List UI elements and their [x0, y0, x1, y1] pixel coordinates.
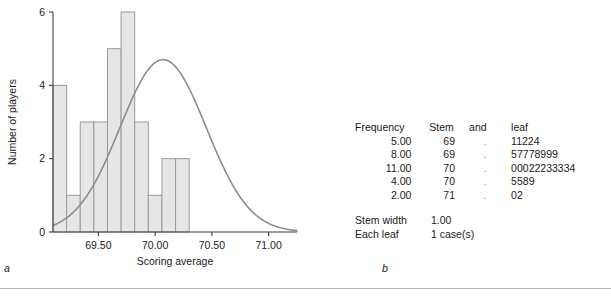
cell-stem: 70: [411, 163, 469, 177]
cell-leaf: 57778999: [501, 149, 605, 163]
y-tick-label: 2: [39, 152, 45, 164]
y-axis-title: Number of players: [6, 79, 18, 165]
cell-frequency: 5.00: [355, 136, 411, 150]
x-axis-title: Scoring average: [137, 255, 214, 267]
cell-leaf: 02: [501, 190, 605, 204]
cell-separator-dot: .: [469, 190, 501, 204]
cell-leaf: 00022233334: [501, 163, 605, 177]
header-and: and: [469, 122, 501, 136]
x-tick-label: 70.00: [142, 239, 168, 251]
cell-leaf: 11224: [501, 136, 605, 150]
y-tick-label: 6: [39, 6, 45, 18]
x-tick-label: 69.50: [85, 239, 111, 251]
footer-label: Each leaf: [355, 227, 431, 241]
header-frequency: Frequency: [355, 122, 411, 136]
cell-separator-dot: .: [469, 176, 501, 190]
cell-stem: 71: [411, 190, 469, 204]
header-leaf: leaf: [501, 122, 605, 136]
histogram-bar: [80, 122, 94, 232]
histogram-bar: [53, 85, 67, 232]
stem-and-leaf-table: Frequency Stem and leaf 5.0069.112248.00…: [355, 122, 605, 203]
footer-row: Stem width1.00: [355, 213, 605, 227]
histogram-bar: [176, 159, 190, 232]
cell-stem: 69: [411, 136, 469, 150]
y-tick-label: 0: [39, 226, 45, 238]
histogram-bar: [135, 122, 149, 232]
cell-separator-dot: .: [469, 149, 501, 163]
cell-stem: 70: [411, 176, 469, 190]
histogram-bar: [67, 195, 81, 232]
histogram-bar: [162, 159, 176, 232]
cell-separator-dot: .: [469, 163, 501, 177]
stem-and-leaf-body: 5.0069.112248.0069.5777899911.0070.00022…: [355, 136, 605, 204]
histogram-bar: [121, 12, 135, 232]
panel-label-b: b: [382, 262, 388, 274]
cell-frequency: 11.00: [355, 163, 411, 177]
bottom-divider: [0, 288, 611, 289]
footer-label: Stem width: [355, 213, 431, 227]
y-tick-label: 4: [39, 79, 45, 91]
x-tick-label: 70.50: [199, 239, 225, 251]
histogram-bar: [94, 122, 108, 232]
cell-frequency: 8.00: [355, 149, 411, 163]
cell-separator-dot: .: [469, 136, 501, 150]
cell-stem: 69: [411, 149, 469, 163]
footer-value: 1 case(s): [431, 227, 474, 241]
table-header-row: Frequency Stem and leaf: [355, 122, 605, 136]
histogram-panel: 0246 69.5070.0070.5071.00 Number of play…: [0, 0, 320, 280]
table-row: 4.0070.5589: [355, 176, 605, 190]
cell-leaf: 5589: [501, 176, 605, 190]
table-row: 5.0069.11224: [355, 136, 605, 150]
table-row: 11.0070.00022233334: [355, 163, 605, 177]
histogram-chart: 0246 69.5070.0070.5071.00 Number of play…: [0, 0, 320, 280]
footer-row: Each leaf1 case(s): [355, 227, 605, 241]
histogram-bar: [148, 195, 162, 232]
cell-frequency: 2.00: [355, 190, 411, 204]
stem-and-leaf-footer: Stem width1.00Each leaf1 case(s): [355, 213, 605, 241]
x-tick-label: 71.00: [255, 239, 281, 251]
footer-value: 1.00: [431, 213, 451, 227]
stem-and-leaf-panel: Frequency Stem and leaf 5.0069.112248.00…: [355, 122, 605, 241]
y-axis-ticks: 0246: [39, 6, 53, 238]
panel-label-a: a: [4, 262, 10, 274]
x-axis-ticks: 69.5070.0070.5071.00: [85, 232, 282, 251]
header-stem: Stem: [411, 122, 469, 136]
cell-frequency: 4.00: [355, 176, 411, 190]
histogram-bars: [53, 12, 189, 232]
table-row: 8.0069.57778999: [355, 149, 605, 163]
table-row: 2.0071.02: [355, 190, 605, 204]
